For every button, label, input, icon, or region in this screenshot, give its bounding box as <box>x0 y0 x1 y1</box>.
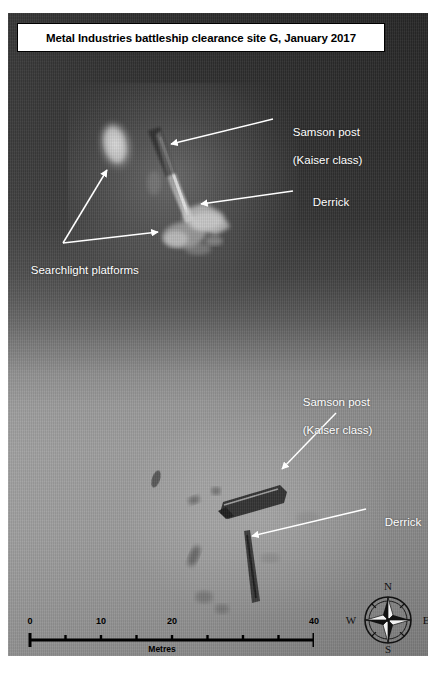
figure-title-text: Metal Industries battleship clearance si… <box>46 32 356 44</box>
compass-south-label: S <box>385 643 391 655</box>
label-samson-post-upper-line2: (Kaiser class) <box>293 154 363 166</box>
compass-north-label: N <box>384 580 392 592</box>
compass-west-label: W <box>346 614 357 626</box>
label-derrick-lower: Derrick <box>372 501 421 543</box>
figure-title-box: Metal Industries battleship clearance si… <box>17 23 385 52</box>
scale-label-0: 0 <box>27 616 32 626</box>
scale-label-10: 10 <box>96 616 106 626</box>
label-samson-post-upper-line1: Samson post <box>293 126 360 138</box>
scale-label-40: 40 <box>309 616 319 626</box>
sonar-survey-figure: Samson post (Kaiser class) Derrick Searc… <box>8 13 428 656</box>
scale-bar-unit-label: Metres <box>148 644 175 654</box>
label-derrick-upper: Derrick <box>300 181 349 223</box>
label-searchlight-platforms: Searchlight platforms <box>18 249 139 291</box>
label-samson-post-lower-line1: Samson post <box>303 396 370 408</box>
label-samson-post-lower-line2: (Kaiser class) <box>303 424 373 436</box>
label-derrick-lower-text: Derrick <box>385 516 421 528</box>
compass-east-label: E <box>423 614 428 626</box>
scale-bar: 0 10 20 40 Metres <box>14 616 314 656</box>
label-searchlight-platforms-text: Searchlight platforms <box>31 264 139 276</box>
label-derrick-upper-text: Derrick <box>313 196 349 208</box>
label-samson-post-upper: Samson post (Kaiser class) <box>280 111 362 181</box>
sonar-noise-texture <box>8 13 428 656</box>
compass-rose: N E S W <box>343 578 428 656</box>
label-samson-post-lower: Samson post (Kaiser class) <box>290 381 372 451</box>
scale-label-20: 20 <box>167 616 177 626</box>
